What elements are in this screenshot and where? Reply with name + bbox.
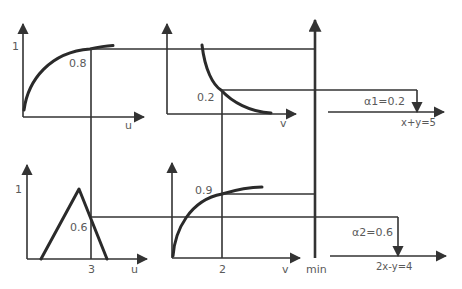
rule2-u-x-tick: 3	[88, 263, 95, 276]
rule2-u-plot: 1 0.6 3 u	[15, 165, 147, 276]
fuzzy-inference-diagram: 1 0.8 u 0.2 v min α1=0.2 x+y=5	[0, 0, 462, 289]
rule1-result: α1=0.2 x+y=5	[328, 90, 444, 128]
rule1-u-value-label: 0.8	[69, 57, 87, 70]
rule1-v-x-label: v	[280, 117, 287, 130]
rule1-u-membership-curve	[24, 46, 113, 111]
rule2-consequent-label: 2x-y=4	[376, 261, 412, 272]
rule2-v-x-tick: 2	[219, 263, 226, 276]
rule1-u-y-tick: 1	[12, 40, 19, 53]
rule2-u-value-label: 0.6	[70, 221, 88, 234]
rule1-u-x-label: u	[125, 119, 132, 132]
rule2-v-membership-curve	[173, 187, 262, 256]
rule2-alpha-label: α2=0.6	[352, 226, 393, 239]
min-axis-label: min	[306, 263, 327, 276]
rule1-v-plot: 0.2 v	[167, 24, 296, 130]
rule1-u-plot: 1 0.8 u	[12, 24, 144, 132]
rule2-result: α2=0.6 2x-y=4	[330, 217, 446, 272]
rule1-alpha-label: α1=0.2	[364, 95, 405, 108]
rule2-v-x-label: v	[282, 263, 289, 276]
rule2-u-x-label: u	[131, 263, 138, 276]
rule1-v-value-label: 0.2	[197, 91, 215, 104]
rule2-v-plot: 0.9 2 v	[172, 163, 300, 276]
rule1-consequent-label: x+y=5	[401, 117, 436, 128]
rule2-u-y-tick: 1	[15, 183, 22, 196]
rule2-v-value-label: 0.9	[195, 184, 213, 197]
